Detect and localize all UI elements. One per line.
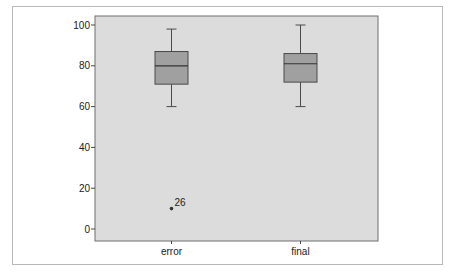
y-tick-label: 80: [79, 60, 91, 71]
y-tick-label: 0: [84, 224, 90, 235]
x-axis: errorfinal: [161, 241, 310, 257]
y-axis: 020406080100: [73, 20, 95, 235]
plot-area: [95, 16, 378, 241]
x-category-label: error: [161, 246, 183, 257]
iqr-box: [155, 52, 188, 85]
x-category-label: final: [291, 246, 309, 257]
outlier-label: 26: [175, 197, 187, 208]
y-tick-label: 40: [79, 142, 91, 153]
boxplot-chart: 020406080100 errorfinal 26: [0, 0, 454, 272]
y-tick-label: 100: [73, 20, 90, 31]
y-tick-label: 60: [79, 101, 91, 112]
outlier-point: [170, 207, 174, 211]
y-tick-label: 20: [79, 183, 91, 194]
iqr-box: [284, 54, 317, 83]
